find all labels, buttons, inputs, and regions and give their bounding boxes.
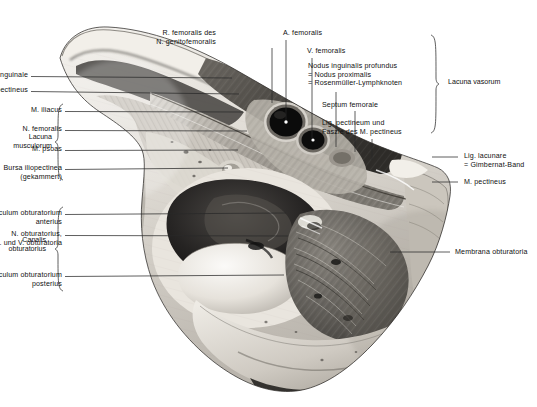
anatomy-figure: Lig. inguinaleArcus iliopectineusM. ilia…	[0, 0, 537, 407]
label-arcus-iliopectineus: Arcus iliopectineus	[0, 86, 28, 95]
label-lig-pectineum: Lig. pectineum und Faszie des M. pectine…	[322, 119, 402, 136]
dissection-plate	[0, 0, 537, 407]
label-m-iliacus: M. iliacus	[31, 106, 62, 115]
group-label-canalis-obturatorius: Canalis obturatorius	[9, 236, 46, 253]
group-label-lacuna-musculorum: Lacuna musculorum	[13, 133, 52, 150]
label-membrana-obturatoria: Membrana obturatoria	[455, 248, 528, 257]
label-r-femoralis-n-genitofemoralis: R. femoralis des N. genitofemoralis	[156, 29, 216, 46]
label-m-pectineus: M. pectineus	[464, 178, 506, 187]
label-a-femoralis: A. femoralis	[283, 29, 322, 38]
nodus-inguinalis	[329, 149, 355, 167]
label-tuberculum-obturatorium-anterius: Tuberculum obturatorium anterius	[0, 209, 62, 226]
group-label-lacuna-vasorum: Lacuna vasorum	[448, 78, 500, 87]
label-lig-inguinale: Lig. inguinale	[0, 71, 28, 80]
label-bursa-iliopectinea: Bursa iliopectinea (gekammert)	[3, 164, 62, 181]
leader-m-iliacus	[65, 112, 243, 113]
label-lig-lacunare: Lig. lacunare = Gimbernat-Band	[464, 152, 524, 169]
brace-lacuna-vasorum	[431, 35, 439, 133]
label-nodus-inguinalis-profundus: Nodus inguinalis profundus = Nodus proxi…	[308, 62, 402, 88]
label-septum-femorale: Septum femorale	[322, 101, 378, 110]
leader-n-femoralis	[65, 131, 247, 132]
label-v-femoralis: V. femoralis	[307, 47, 346, 56]
specimen-body	[0, 0, 537, 407]
leader-n-obturatorius	[65, 236, 288, 237]
label-tuberculum-obturatorium-posterius: Tuberculum obturatorium posterius	[0, 271, 62, 288]
leader-m-psoas	[65, 150, 238, 151]
